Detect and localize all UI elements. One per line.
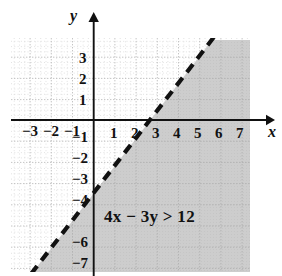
x-tick-label-2: 2: [131, 126, 139, 141]
inequality-annotation: 4x − 3y > 12: [104, 208, 195, 225]
y-tick-label--1: −1: [72, 130, 88, 145]
x-tick-label-3: 3: [152, 126, 160, 141]
y-axis-arrow: [89, 12, 99, 22]
y-tick-label--4: −4: [72, 193, 88, 208]
x-tick-label-4: 4: [173, 126, 181, 141]
x-tick-label-7: 7: [236, 126, 244, 141]
y-tick-label-3: 3: [79, 51, 87, 66]
y-tick-label--6: −6: [72, 235, 88, 250]
x-tick-label-1: 1: [110, 126, 118, 141]
y-tick-label--3: −3: [72, 172, 88, 187]
x-tick-label-6: 6: [215, 126, 223, 141]
x-tick-label--3: −3: [22, 124, 38, 139]
inequality-graph-figure: y x −3 −2 −1 1 2 3 4 5 6 7 3 2 1 −1 −2 −…: [0, 0, 282, 276]
y-tick-label--7: −7: [72, 256, 88, 271]
x-axis-label: x: [268, 124, 276, 140]
y-axis-label: y: [70, 8, 77, 24]
y-tick-label--2: −2: [72, 151, 88, 166]
x-tick-label-5: 5: [194, 126, 202, 141]
y-tick-label-1: 1: [79, 93, 87, 108]
x-tick-label--2: −2: [43, 124, 59, 139]
y-tick-label-2: 2: [79, 72, 87, 87]
